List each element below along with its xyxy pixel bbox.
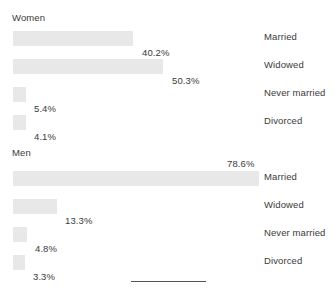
- bar-women-widowed: [13, 59, 163, 74]
- footer-rule: [131, 281, 206, 282]
- bar-value-men-widowed: 13.3%: [65, 215, 92, 226]
- marital-status-chart: Women 40.2% Married 50.3% Widowed 5.4% N…: [0, 0, 335, 290]
- panel-women: Women 40.2% Married 50.3% Widowed 5.4% N…: [0, 0, 335, 140]
- category-label-men-divorced: Divorced: [264, 255, 302, 266]
- panel-men: Men 78.6% Married 13.3% Widowed 4.8% Nev…: [0, 140, 335, 290]
- bar-rows-women: 40.2% Married 50.3% Widowed 5.4% Never m…: [0, 0, 335, 140]
- table-row: 13.3% Widowed: [0, 199, 335, 227]
- bar-value-women-widowed: 50.3%: [172, 75, 199, 86]
- table-row: 40.2% Married: [0, 31, 335, 59]
- table-row: 5.4% Never married: [0, 87, 335, 115]
- bar-rows-men: 78.6% Married 13.3% Widowed 4.8% Never m…: [0, 140, 335, 290]
- bar-women-married: [13, 31, 133, 46]
- bar-value-women-married: 40.2%: [142, 47, 169, 58]
- bar-value-women-never-married: 5.4%: [34, 103, 56, 114]
- bar-women-divorced: [13, 115, 26, 130]
- bar-men-married: [13, 171, 259, 186]
- category-label-men-married: Married: [264, 171, 297, 182]
- bar-men-widowed: [13, 199, 57, 214]
- table-row: 4.1% Divorced: [0, 115, 335, 143]
- bar-women-never-married: [13, 87, 26, 102]
- bar-value-men-never-married: 4.8%: [35, 243, 57, 254]
- bar-value-men-divorced: 3.3%: [33, 271, 55, 282]
- category-label-men-never-married: Never married: [264, 227, 325, 238]
- table-row: 78.6% Married: [0, 171, 335, 199]
- category-label-women-married: Married: [264, 31, 297, 42]
- category-label-women-divorced: Divorced: [264, 115, 302, 126]
- category-label-men-widowed: Widowed: [264, 199, 304, 210]
- table-row: 50.3% Widowed: [0, 59, 335, 87]
- bar-men-never-married: [13, 227, 27, 242]
- table-row: 4.8% Never married: [0, 227, 335, 255]
- category-label-women-never-married: Never married: [264, 87, 325, 98]
- bar-value-men-married: 78.6%: [227, 158, 254, 169]
- bar-men-divorced: [13, 255, 25, 270]
- table-row: 3.3% Divorced: [0, 255, 335, 283]
- category-label-women-widowed: Widowed: [264, 59, 304, 70]
